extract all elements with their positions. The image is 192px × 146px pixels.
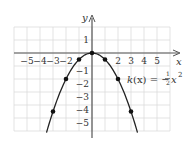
- data-point: [116, 77, 121, 82]
- y-tick-label: −5: [76, 118, 90, 128]
- x-tick-labels: −5−4−3−22345: [20, 56, 160, 66]
- chart: x y −5−4−3−22345 1−1−2−3−4−5 k(x) = − 1 …: [0, 0, 192, 146]
- data-point: [51, 109, 56, 114]
- y-axis-label: y: [81, 12, 88, 23]
- y-tick-label: −1: [76, 66, 89, 76]
- data-point: [90, 51, 95, 56]
- function-label: k(x) = − 1 2 x 2: [127, 70, 182, 86]
- x-tick-label: −4: [33, 56, 47, 66]
- y-tick-label: −2: [76, 79, 89, 89]
- x-tick-label: −5: [20, 56, 34, 66]
- fraction-denominator: 2: [166, 79, 170, 86]
- y-tick-labels: 1−1−2−3−4−5: [76, 35, 90, 128]
- x-tick-label: 5: [154, 56, 160, 66]
- function-label-exponent: 2: [178, 71, 182, 79]
- data-point: [64, 77, 69, 82]
- x-tick-label: −2: [59, 56, 72, 66]
- function-label-prefix: k(x) = −: [127, 74, 170, 85]
- x-tick-label: 2: [115, 56, 121, 66]
- x-tick-label: −3: [46, 56, 60, 66]
- data-point: [129, 109, 134, 114]
- y-tick-label: −3: [76, 92, 90, 102]
- y-tick-label: 1: [83, 35, 89, 45]
- data-point: [103, 57, 108, 62]
- data-point: [77, 57, 82, 62]
- y-tick-label: −4: [76, 105, 90, 115]
- x-axis-label: x: [176, 56, 182, 67]
- x-tick-label: 4: [141, 56, 147, 66]
- function-label-variable: x: [171, 74, 177, 85]
- x-tick-label: 3: [128, 56, 134, 66]
- fraction-numerator: 1: [166, 70, 170, 77]
